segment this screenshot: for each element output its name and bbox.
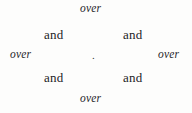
word-over-bottom: over bbox=[80, 93, 101, 105]
word-and-top-left: and bbox=[44, 28, 63, 41]
word-diagram-canvas: over and and over . over and and over bbox=[0, 0, 192, 113]
word-and-top-right: and bbox=[123, 28, 142, 41]
word-over-top: over bbox=[80, 3, 101, 15]
word-and-bottom-right: and bbox=[123, 71, 142, 84]
word-and-bottom-left: and bbox=[44, 71, 63, 84]
word-over-left: over bbox=[10, 49, 31, 61]
word-over-right: over bbox=[158, 49, 179, 61]
center-dot: . bbox=[92, 50, 95, 61]
